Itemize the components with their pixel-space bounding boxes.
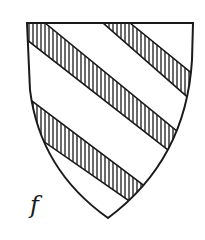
bend-middle <box>27 23 200 175</box>
figure-label: f <box>30 193 39 217</box>
bends <box>20 23 200 205</box>
